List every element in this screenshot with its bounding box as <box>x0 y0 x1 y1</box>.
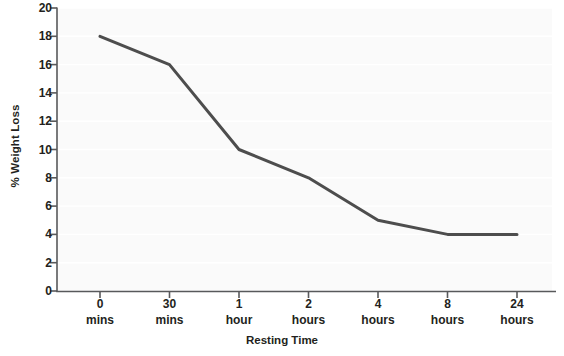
y-axis-tick-label: 4 <box>45 227 52 241</box>
y-axis-tick-label: 8 <box>45 171 52 185</box>
y-axis-tick-label: 12 <box>39 114 52 128</box>
y-axis-tick-label: 2 <box>45 256 52 270</box>
x-axis-tick-label-value: 30 <box>163 297 176 311</box>
y-axis-tick-labels: 02468101214161820 <box>26 0 52 300</box>
y-axis-tick-label: 16 <box>39 58 52 72</box>
x-axis-tick-label-unit: mins <box>155 312 183 328</box>
x-axis-tick-label-value: 0 <box>97 297 104 311</box>
x-axis-tick-label-unit: hours <box>500 312 533 328</box>
x-axis-tick-label: 0mins <box>86 296 114 328</box>
x-axis-tick-label-unit: hours <box>431 312 464 328</box>
x-axis-tick-label-unit: mins <box>86 312 114 328</box>
y-axis-tick-label: 6 <box>45 199 52 213</box>
x-axis-tick-label-value: 4 <box>375 297 382 311</box>
x-axis-tick-label-value: 8 <box>444 297 451 311</box>
x-axis-tick-label-unit: hour <box>226 312 253 328</box>
x-axis-tick-label-unit: hours <box>361 312 394 328</box>
y-axis-tick-label: 14 <box>39 86 52 100</box>
x-axis-tick-label: 24hours <box>500 296 533 328</box>
x-axis-tick-label: 8hours <box>431 296 464 328</box>
x-axis-tick-label: 4hours <box>361 296 394 328</box>
x-axis-tick-label: 30mins <box>155 296 183 328</box>
y-axis-tick-label: 10 <box>39 143 52 157</box>
x-axis-tick-label-value: 1 <box>236 297 243 311</box>
x-axis-title: Resting Time <box>0 334 564 346</box>
y-axis-tick-label: 18 <box>39 29 52 43</box>
chart-container: % Weight Loss 02468101214161820 0mins30m… <box>0 0 564 356</box>
y-axis-tick-label: 20 <box>39 1 52 15</box>
x-axis-tick-label-unit: hours <box>292 312 325 328</box>
x-axis-tick-label: 2hours <box>292 296 325 328</box>
x-axis-tick-label: 1hour <box>226 296 253 328</box>
x-axis-tick-label-value: 2 <box>305 297 312 311</box>
x-axis-tick-label-value: 24 <box>510 297 523 311</box>
